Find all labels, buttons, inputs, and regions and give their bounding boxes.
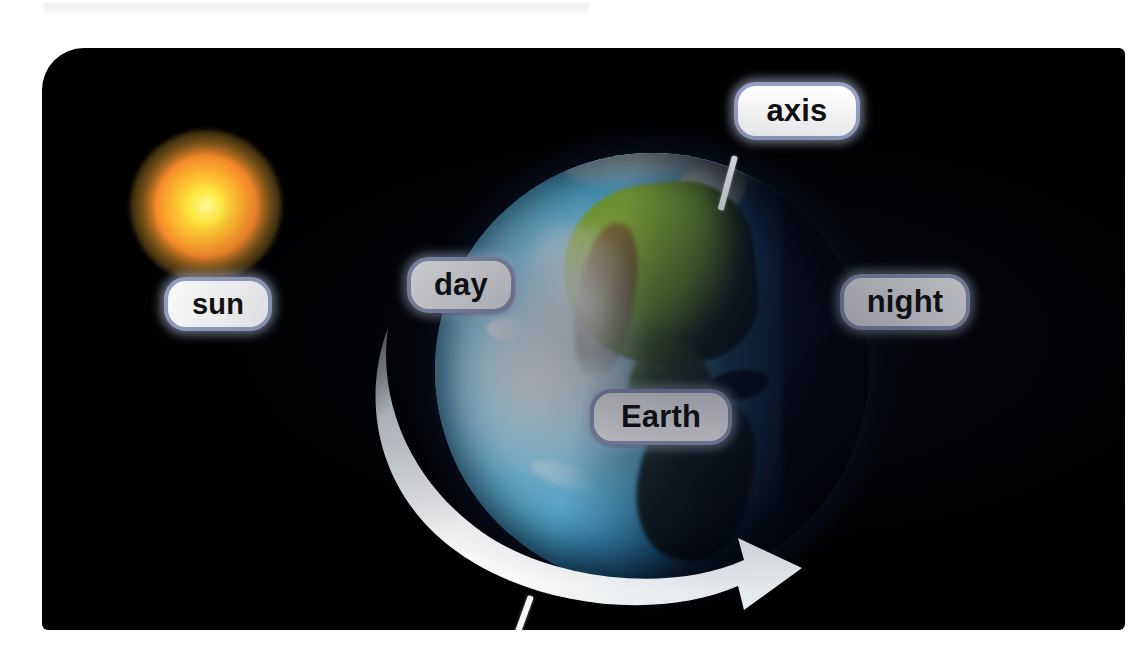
label-earth-text: Earth <box>621 399 701 435</box>
label-night-text: night <box>867 284 944 320</box>
globe-limb-shading <box>435 153 869 587</box>
label-day[interactable]: day <box>407 257 515 313</box>
label-axis-text: axis <box>766 93 827 129</box>
sun-hotspot <box>186 186 226 226</box>
diagram-canvas: axis sun day night Earth <box>0 0 1131 666</box>
earth-globe <box>435 153 869 587</box>
label-sun-text: sun <box>192 288 244 321</box>
label-axis[interactable]: axis <box>734 82 860 140</box>
axis-line-bottom <box>510 595 534 630</box>
label-earth[interactable]: Earth <box>590 389 732 445</box>
label-night[interactable]: night <box>840 274 970 330</box>
label-day-text: day <box>434 267 488 303</box>
sun-graphic <box>130 130 282 282</box>
space-panel: axis sun day night Earth <box>42 48 1125 630</box>
label-sun[interactable]: sun <box>164 277 272 331</box>
scan-artifact <box>44 3 589 15</box>
